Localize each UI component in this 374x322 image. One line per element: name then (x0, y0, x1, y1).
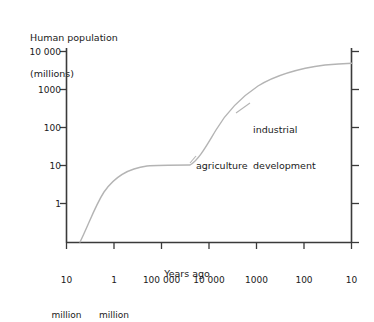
x-axis-title: Years ago (0, 268, 374, 280)
x-tick-label-100: 100 (295, 252, 312, 310)
annotation-industrial-line1: industrial (253, 124, 316, 136)
x-tick-label-10-million: 10 million (52, 252, 82, 322)
x-tick-label-10: 10 (343, 252, 360, 310)
x-tick-label-100000: 100 000 (143, 252, 180, 310)
annotation-industrial-development: industrial development (253, 100, 316, 196)
annotation-industrial-line2: development (253, 160, 316, 172)
x-tick-label-10000: 10 000 (193, 252, 225, 310)
x-tick-label-1-million: 1 million (99, 252, 129, 322)
x-tick-label-1000: 1000 (245, 252, 268, 310)
annotation-agriculture: agriculture (196, 160, 248, 172)
